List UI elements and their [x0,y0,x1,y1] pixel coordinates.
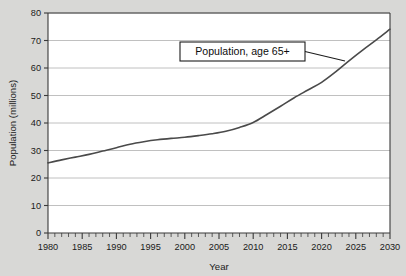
x-tick-label-2010: 2010 [243,242,263,252]
y-axis-title: Population (millions) [7,80,18,166]
chart-container: 01020304050607080 1980198519901995200020… [0,0,406,276]
x-tick-label-1990: 1990 [106,242,126,252]
y-tick-label-10: 10 [31,201,41,211]
x-tick-label-2015: 2015 [277,242,297,252]
y-tick-label-30: 30 [31,146,41,156]
callout-label: Population, age 65+ [195,45,290,57]
y-tick-label-50: 50 [31,91,41,101]
y-tick-label-60: 60 [31,63,41,73]
x-tick-label-2005: 2005 [209,242,229,252]
y-axis-tick-labels: 01020304050607080 [31,8,41,238]
y-tick-label-70: 70 [31,36,41,46]
x-tick-label-2020: 2020 [311,242,331,252]
y-tick-label-0: 0 [36,228,41,238]
y-tick-label-80: 80 [31,8,41,18]
x-tick-label-2025: 2025 [346,242,366,252]
x-axis-title: Year [209,261,229,272]
y-tick-label-40: 40 [31,118,41,128]
x-tick-label-1995: 1995 [140,242,160,252]
x-tick-label-2000: 2000 [175,242,195,252]
population-line-chart: 01020304050607080 1980198519901995200020… [0,0,406,276]
x-tick-label-1980: 1980 [38,242,58,252]
x-tick-label-1985: 1985 [72,242,92,252]
y-tick-label-20: 20 [31,173,41,183]
x-axis-tick-labels: 1980198519901995200020052010201520202025… [38,242,400,252]
x-tick-label-2030: 2030 [380,242,400,252]
